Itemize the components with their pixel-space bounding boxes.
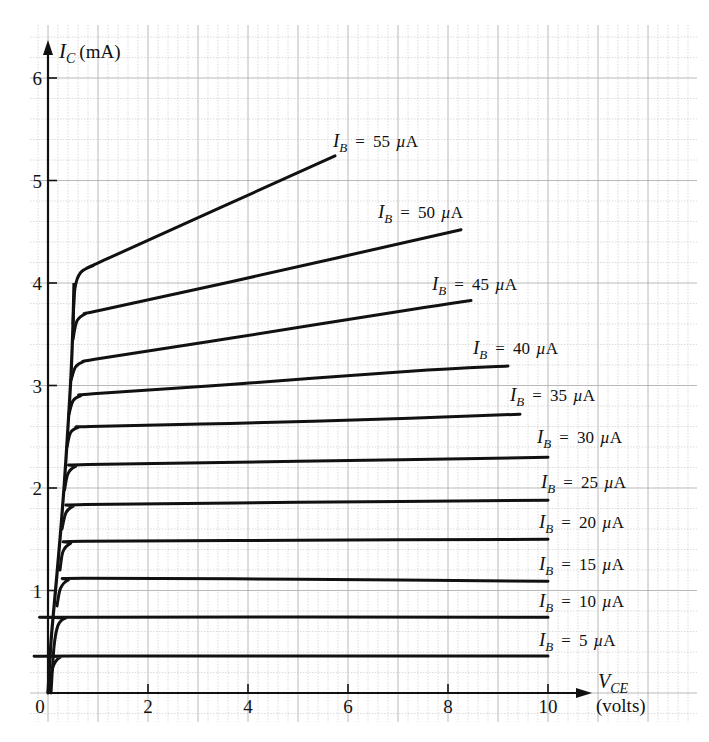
ib-curve-30ua	[65, 457, 549, 490]
curve-label-25ua: IB=25µA	[540, 471, 627, 496]
y-tick-label: 3	[33, 376, 43, 397]
y-tick-label: 6	[33, 68, 43, 89]
y-tick-label: 1	[33, 581, 43, 602]
x-tick-label: 10	[539, 696, 558, 717]
x-axis-arrow-icon	[576, 688, 592, 698]
x-tick-label: 0	[35, 696, 45, 717]
curve-label-50ua: IB=50µA	[377, 201, 464, 226]
x-tick-label: 2	[143, 696, 153, 717]
y-axis-subscript: C	[66, 51, 76, 66]
curve-label-20ua: IB=20µA	[538, 511, 625, 536]
y-axis-unit: (mA)	[79, 41, 120, 63]
x-axis-subscript: CE	[610, 681, 628, 696]
ib-curve-35ua	[67, 414, 520, 447]
x-tick-label: 8	[443, 696, 453, 717]
curve-labels: IB=5µAIB=10µAIB=15µAIB=20µAIB=25µAIB=30µ…	[332, 130, 627, 654]
transistor-characteristic-chart: 0246810123456 IC(mA) VCE (volts) IB=5µAI…	[0, 0, 709, 742]
ib-curve-5ua	[34, 656, 548, 693]
ib-curve-55ua	[73, 156, 335, 324]
ib-curve-45ua	[71, 300, 471, 380]
x-tick-label: 4	[243, 696, 253, 717]
y-tick-label: 4	[33, 273, 43, 294]
ib-curve-15ua	[57, 578, 548, 606]
curve-label-15ua: IB=15µA	[538, 553, 625, 578]
x-axis-unit: (volts)	[596, 695, 646, 717]
ib-curve-50ua	[73, 230, 461, 340]
ib-curve-40ua	[69, 366, 508, 414]
svg-text:VCE: VCE	[598, 670, 629, 696]
curve-label-35ua: IB=35µA	[509, 384, 596, 409]
collector-curves	[34, 156, 548, 693]
curve-label-40ua: IB=40µA	[472, 337, 559, 362]
axes	[43, 40, 592, 698]
y-axis-arrow-icon	[43, 40, 53, 55]
y-tick-label: 2	[33, 478, 43, 499]
curve-label-10ua: IB=10µA	[538, 590, 625, 615]
y-axis-label: IC(mA)	[58, 39, 121, 66]
ib-curve-25ua	[62, 500, 548, 529]
curve-label-5ua: IB=5µA	[538, 629, 616, 654]
curve-label-45ua: IB=45µA	[431, 273, 518, 298]
svg-text:IC(mA): IC(mA)	[58, 39, 121, 66]
ib-curve-20ua	[60, 539, 548, 570]
x-tick-label: 6	[343, 696, 353, 717]
y-tick-label: 5	[33, 171, 43, 192]
curve-label-55ua: IB=55µA	[332, 130, 419, 155]
